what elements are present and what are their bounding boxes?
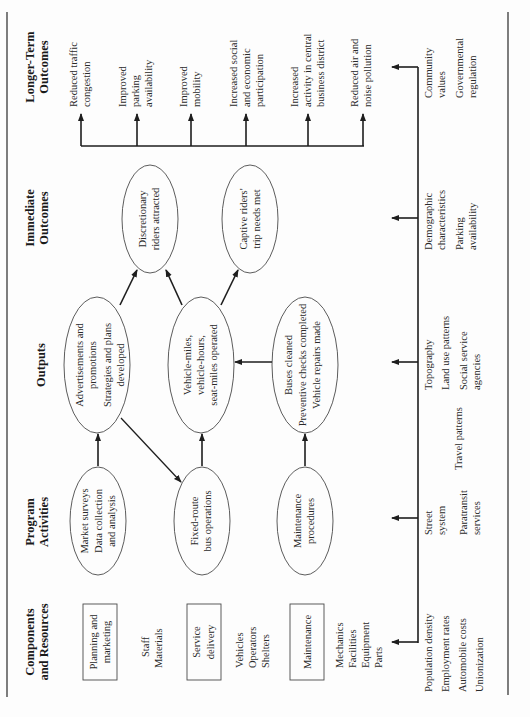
header-immediate-outcomes: Immediate Outcomes: [23, 189, 51, 247]
output-buses-cleaned-repairs: Buses cleaned Preventive checks complete…: [272, 297, 338, 433]
svg-text:Discretionary: Discretionary: [137, 190, 148, 248]
svg-text:Service: Service: [191, 626, 202, 658]
svg-text:participation: participation: [254, 53, 265, 107]
svg-text:Preventive checks completed: Preventive checks completed: [297, 303, 308, 426]
header-components-and-resources: Components and Resources: [23, 603, 51, 680]
header-outputs: Outputs: [34, 343, 48, 387]
svg-text:business district: business district: [315, 40, 326, 107]
output-vehicle-miles-hours: Vehicle-miles, vehicle-hours, seat-miles…: [168, 297, 234, 433]
svg-text:Improved: Improved: [117, 65, 128, 107]
context-immediate: Demographic characteristics Parking avai…: [423, 190, 478, 250]
svg-text:congestion: congestion: [81, 61, 92, 107]
svg-text:Vehicle repairs made: Vehicle repairs made: [311, 321, 322, 409]
context-longer: Community values Governmental regulation: [423, 38, 478, 98]
svg-text:Outcomes: Outcomes: [37, 191, 51, 245]
svg-text:characteristics: characteristics: [436, 190, 447, 250]
svg-text:Materials: Materials: [153, 628, 164, 668]
svg-text:seat-miles operated: seat-miles operated: [208, 324, 219, 406]
activity-maintenance-procedures: Maintenance procedures: [277, 467, 333, 575]
svg-text:procedures: procedures: [305, 498, 316, 544]
svg-text:and analysis: and analysis: [106, 495, 117, 547]
svg-text:Shelters: Shelters: [260, 634, 271, 668]
svg-text:Vehicle-miles,: Vehicle-miles,: [182, 335, 193, 395]
outcome-reduced-air-noise-pollution: Reduced air and noise pollution: [349, 38, 373, 107]
svg-text:Staff: Staff: [140, 636, 151, 657]
svg-text:Vehicles: Vehicles: [234, 632, 245, 668]
svg-text:noise pollution: noise pollution: [362, 44, 373, 107]
svg-text:Increased social: Increased social: [228, 40, 239, 107]
svg-text:and Resources: and Resources: [37, 603, 51, 680]
svg-text:Reduced traffic: Reduced traffic: [68, 42, 79, 107]
svg-text:trip needs met: trip needs met: [251, 189, 262, 249]
svg-text:Population density: Population density: [423, 613, 434, 692]
contextual-factors-spine: [392, 67, 418, 643]
svg-text:delivery: delivery: [205, 624, 216, 659]
context-travel-patterns: Travel patterns: [453, 407, 464, 470]
svg-text:Advertisements and: Advertisements and: [74, 322, 85, 406]
svg-text:mobility: mobility: [191, 71, 202, 107]
arrow-icon: [120, 270, 137, 305]
activity-market-surveys: Market surveys Data collection and analy…: [70, 467, 126, 575]
svg-text:Activities: Activities: [37, 497, 51, 547]
svg-text:Maintenance: Maintenance: [302, 615, 313, 670]
planning-to-operations-arrow-icon: [121, 418, 181, 482]
context-outputs: Topography Land use patterns Social serv…: [423, 316, 482, 390]
svg-text:bus operations: bus operations: [202, 491, 213, 552]
logic-model-diagram: Longer-Term Outcomes Immediate Outcomes …: [0, 0, 530, 717]
resources-planning: Staff Materials: [140, 628, 164, 668]
svg-text:Program: Program: [23, 498, 37, 546]
component-planning-and-marketing: Planning and marketing: [83, 604, 117, 680]
svg-text:Improved: Improved: [178, 65, 189, 107]
arrow-icon: [166, 270, 182, 305]
component-maintenance: Maintenance: [290, 604, 324, 680]
svg-text:Fixed-route: Fixed-route: [189, 496, 200, 545]
header-program-activities: Program Activities: [23, 497, 51, 547]
svg-text:Data collection: Data collection: [93, 488, 104, 553]
svg-text:Outputs: Outputs: [34, 343, 48, 387]
svg-text:Unionization: Unionization: [474, 636, 485, 692]
svg-text:values: values: [436, 71, 447, 98]
svg-text:Parking: Parking: [454, 217, 465, 250]
svg-text:Immediate: Immediate: [23, 189, 37, 247]
longer-term-outcome-list: Reduced traffic congestion Improved park…: [68, 33, 373, 107]
svg-text:Operators: Operators: [247, 627, 258, 668]
svg-text:system: system: [436, 506, 447, 535]
svg-text:Governmental: Governmental: [454, 38, 465, 98]
outcome-increased-cbd-activity: Increased activity in central business d…: [289, 33, 326, 107]
svg-text:Parts: Parts: [373, 647, 384, 668]
svg-text:activity in central: activity in central: [302, 33, 313, 107]
svg-text:Topography: Topography: [423, 339, 434, 390]
context-components: Population density Employment rates Auto…: [423, 613, 485, 692]
svg-text:riders attracted: riders attracted: [150, 187, 161, 250]
svg-text:agencies: agencies: [471, 354, 482, 390]
outcome-increased-social-economic-participation: Increased social and economic participat…: [228, 40, 265, 107]
activity-fixed-route-bus-operations: Fixed-route bus operations: [174, 467, 230, 575]
svg-text:Increased: Increased: [289, 66, 300, 107]
svg-text:Paratransit: Paratransit: [458, 490, 469, 535]
logic-model-figure: Longer-Term Outcomes Immediate Outcomes …: [0, 0, 530, 717]
svg-text:marketing: marketing: [101, 620, 112, 663]
svg-text:promotions: promotions: [87, 341, 98, 389]
svg-text:regulation: regulation: [467, 55, 478, 98]
svg-text:Equipment: Equipment: [360, 622, 371, 668]
resources-service-delivery: Vehicles Operators Shelters: [234, 627, 271, 668]
svg-text:Land use patterns: Land use patterns: [440, 316, 451, 390]
svg-text:Travel patterns: Travel patterns: [453, 407, 464, 470]
svg-text:developed: developed: [115, 343, 126, 387]
arrow-icon: [221, 270, 238, 305]
output-advertisements-strategies: Advertisements and promotions Strategies…: [64, 297, 130, 433]
svg-text:Planning and: Planning and: [88, 614, 99, 670]
resources-maintenance: Mechanics Facilities Equipment Parts: [334, 622, 384, 668]
svg-text:Outcomes: Outcomes: [37, 40, 51, 94]
outcome-improved-parking-availability: Improved parking availability: [117, 59, 154, 107]
svg-text:Automobile costs: Automobile costs: [457, 618, 468, 692]
svg-text:vehicle-hours,: vehicle-hours,: [195, 335, 206, 395]
svg-text:Mechanics: Mechanics: [334, 623, 345, 668]
immediate-outcome-discretionary-riders: Discretionary riders attracted: [122, 165, 178, 273]
svg-text:Reduced air and: Reduced air and: [349, 38, 360, 107]
svg-text:Employment rates: Employment rates: [440, 615, 451, 692]
svg-text:services: services: [471, 501, 482, 535]
outcome-reduced-traffic-congestion: Reduced traffic congestion: [68, 42, 92, 107]
immediate-outcome-captive-riders: Captive riders' trip needs met: [222, 165, 278, 273]
svg-text:Components: Components: [23, 608, 37, 676]
